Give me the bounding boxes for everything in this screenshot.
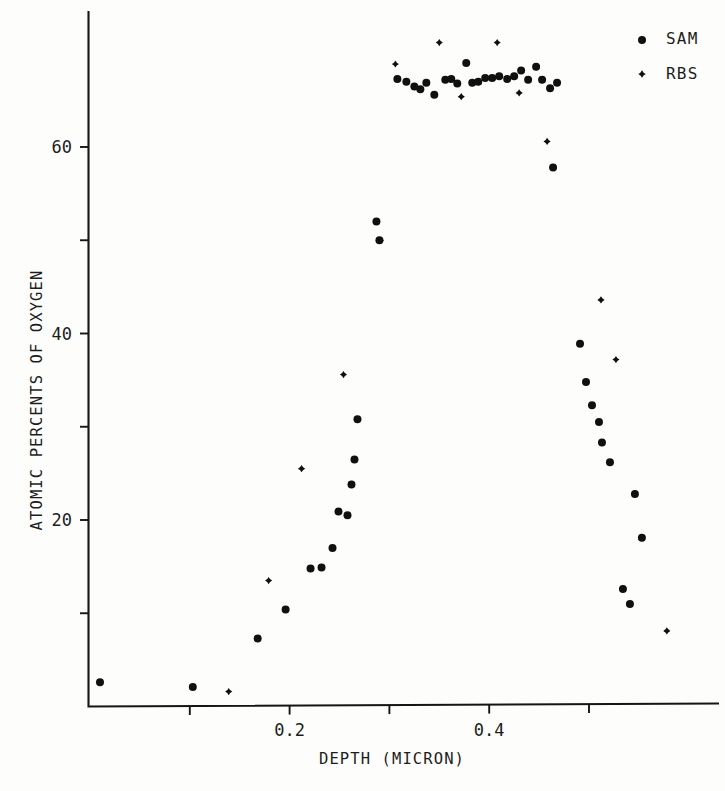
data-point-sam	[474, 78, 482, 86]
data-point-sam	[503, 75, 511, 83]
series-sam	[96, 59, 646, 691]
data-point-sam	[488, 74, 496, 82]
data-point-rbs	[458, 93, 465, 100]
data-point-sam	[393, 75, 401, 83]
data-point-sam	[350, 455, 358, 463]
data-point-rbs	[340, 371, 347, 378]
data-point-rbs	[516, 89, 523, 96]
data-point-sam	[517, 67, 525, 75]
data-point-sam	[416, 85, 424, 93]
data-point-sam	[553, 79, 561, 87]
data-point-rbs	[225, 688, 232, 695]
data-point-sam	[318, 564, 326, 572]
data-point-sam	[638, 534, 646, 542]
data-point-sam	[347, 481, 355, 489]
data-point-sam	[598, 439, 606, 447]
legend: SAMRBS	[638, 29, 699, 83]
data-point-sam	[282, 606, 290, 614]
data-point-sam	[402, 78, 410, 86]
data-point-sam	[430, 91, 438, 99]
data-points	[96, 39, 670, 695]
data-point-rbs	[494, 39, 501, 46]
data-point-sam	[606, 458, 614, 466]
data-point-sam	[372, 218, 380, 226]
data-point-sam	[495, 72, 503, 80]
data-point-rbs	[392, 60, 399, 67]
data-point-rbs	[663, 627, 670, 634]
data-point-sam	[576, 340, 584, 348]
data-point-sam	[595, 418, 603, 426]
y-tick-label: 60	[52, 137, 72, 157]
x-tick-label: 0.4	[474, 720, 505, 740]
data-point-sam	[453, 80, 461, 88]
data-point-sam	[532, 63, 540, 71]
tick-labels: 0.20.4204060	[52, 137, 505, 740]
data-point-sam	[189, 683, 197, 691]
legend-entry-sam: SAM	[638, 29, 699, 48]
data-point-sam	[422, 79, 430, 87]
data-point-rbs	[298, 465, 305, 472]
legend-marker-dot-icon	[638, 36, 646, 44]
data-point-sam	[343, 511, 351, 519]
data-point-sam	[481, 74, 489, 82]
legend-marker-cross-icon	[638, 70, 646, 78]
data-point-sam	[353, 415, 361, 423]
data-point-sam	[307, 564, 315, 572]
legend-entry-rbs: RBS	[638, 64, 698, 83]
data-point-sam	[588, 401, 596, 409]
data-point-sam	[619, 585, 627, 593]
y-tick-label: 40	[52, 324, 72, 344]
axis-lines	[89, 12, 719, 707]
data-point-sam	[631, 490, 639, 498]
x-tick-label: 0.2	[274, 720, 305, 740]
series-rbs	[225, 39, 670, 695]
data-point-sam	[549, 164, 557, 172]
data-point-rbs	[265, 577, 272, 584]
legend-label: SAM	[666, 29, 699, 48]
data-point-sam	[335, 508, 343, 516]
data-point-rbs	[543, 138, 550, 145]
data-point-sam	[510, 72, 518, 80]
x-axis-title: DEPTH (MICRON)	[319, 750, 465, 768]
scatter-plot-canvas: 0.20.4204060 SAMRBS DEPTH (MICRON) ATOMI…	[0, 0, 725, 791]
data-point-sam	[254, 634, 262, 642]
data-point-rbs	[597, 296, 604, 303]
data-point-sam	[96, 678, 104, 686]
tick-marks	[80, 147, 589, 715]
data-point-rbs	[436, 39, 443, 46]
chart-figure: 0.20.4204060 SAMRBS DEPTH (MICRON) ATOMI…	[0, 0, 725, 791]
axes	[89, 12, 719, 707]
y-tick-label: 20	[52, 510, 72, 530]
data-point-rbs	[612, 356, 619, 363]
data-point-sam	[524, 76, 532, 84]
data-point-sam	[329, 544, 337, 552]
data-point-sam	[582, 378, 590, 386]
data-point-sam	[538, 76, 546, 84]
data-point-sam	[546, 84, 554, 92]
y-axis-title: ATOMIC PERCENTS OF OXYGEN	[28, 270, 46, 531]
legend-label: RBS	[666, 64, 699, 83]
data-point-sam	[462, 59, 470, 67]
data-point-sam	[626, 600, 634, 608]
